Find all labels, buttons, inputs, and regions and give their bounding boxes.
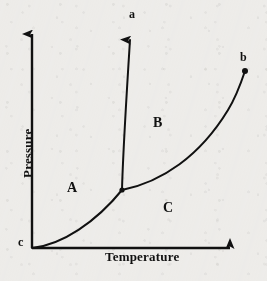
sublimation-curve [32, 190, 122, 248]
point-label-a: a [129, 8, 135, 20]
point-label-b: b [240, 51, 247, 63]
phase-diagram-plot [0, 0, 267, 281]
region-label-a: A [67, 181, 77, 195]
triple-point-marker [119, 187, 124, 192]
axis-group [32, 34, 230, 248]
y-axis-title: Pressure [21, 129, 34, 179]
phase-boundary-curves [32, 40, 245, 248]
vaporization-curve [122, 71, 245, 190]
fusion-curve [122, 40, 130, 190]
region-label-b: B [153, 116, 162, 130]
point-label-c: c [18, 236, 23, 248]
phase-diagram-figure: Pressure Temperature A B C a b c [0, 0, 267, 281]
critical-point-marker [242, 68, 248, 74]
x-axis-title: Temperature [105, 250, 179, 263]
region-label-c: C [163, 201, 173, 215]
